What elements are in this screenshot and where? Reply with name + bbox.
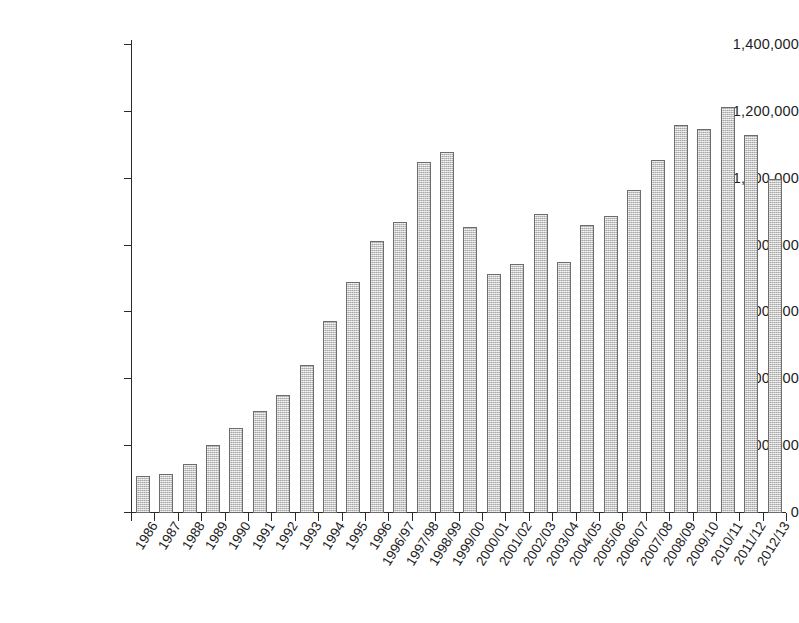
bar (580, 225, 594, 513)
bar (744, 135, 758, 513)
x-tick-mark (388, 513, 389, 521)
bar (229, 428, 243, 513)
bar (136, 476, 150, 513)
x-tick-mark (201, 513, 202, 521)
bar (393, 222, 407, 513)
x-tick-mark (154, 513, 155, 521)
bar (183, 464, 197, 513)
bar (697, 129, 711, 513)
x-tick-mark (342, 513, 343, 521)
x-tick-mark (576, 513, 577, 521)
bar (417, 162, 431, 513)
x-tick-mark (599, 513, 600, 521)
x-tick-mark (552, 513, 553, 521)
bar (323, 321, 337, 513)
x-tick-label: 1992 (272, 519, 301, 552)
bar (721, 107, 735, 513)
bar (510, 264, 524, 513)
x-tick-mark (459, 513, 460, 521)
x-tick-mark (365, 513, 366, 521)
x-tick-mark (248, 513, 249, 521)
x-tick-label: 1986 (132, 519, 161, 552)
x-tick-mark (295, 513, 296, 521)
x-tick-mark (716, 513, 717, 521)
y-tick-mark (124, 512, 131, 513)
bar (604, 216, 618, 514)
bar (534, 214, 548, 513)
x-tick-mark (505, 513, 506, 521)
bar (627, 190, 641, 513)
x-tick-mark (669, 513, 670, 521)
bar-chart: 0200,000400,000600,000800,0001,000,0001,… (0, 0, 799, 623)
x-tick-label: 1995 (342, 519, 371, 552)
x-tick-mark (225, 513, 226, 521)
bar (651, 160, 665, 513)
bar (300, 365, 314, 513)
x-tick-mark (739, 513, 740, 521)
y-tick-mark (124, 111, 131, 112)
x-tick-mark (318, 513, 319, 521)
bar (674, 125, 688, 513)
x-tick-label: 1991 (249, 519, 278, 552)
x-tick-mark (435, 513, 436, 521)
x-tick-label: 1990 (225, 519, 254, 552)
x-tick-mark (763, 513, 764, 521)
x-tick-mark (271, 513, 272, 521)
y-tick-mark (124, 44, 131, 45)
x-tick-mark (646, 513, 647, 521)
y-tick-mark (124, 245, 131, 246)
x-tick-mark (412, 513, 413, 521)
plot-area (131, 40, 786, 513)
y-tick-mark (124, 178, 131, 179)
x-tick-label: 1987 (155, 519, 184, 552)
x-tick-mark (178, 513, 179, 521)
bar (557, 262, 571, 513)
x-tick-label: 1989 (202, 519, 231, 552)
x-tick-mark (529, 513, 530, 521)
bar (463, 227, 477, 513)
x-tick-label: 1993 (296, 519, 325, 552)
bar (487, 274, 501, 513)
x-tick-mark (131, 513, 132, 521)
y-tick-mark (124, 311, 131, 312)
y-tick-mark (124, 445, 131, 446)
bar (206, 445, 220, 513)
bar (768, 179, 782, 513)
bar (346, 282, 360, 513)
x-tick-label: 1994 (319, 519, 348, 552)
bar (159, 474, 173, 513)
x-tick-label: 1988 (179, 519, 208, 552)
y-tick-mark (124, 378, 131, 379)
x-tick-mark (693, 513, 694, 521)
bar (253, 411, 267, 513)
bar (370, 241, 384, 513)
bar (276, 395, 290, 513)
x-tick-mark (482, 513, 483, 521)
bar (440, 152, 454, 513)
x-tick-mark (786, 513, 787, 521)
x-tick-mark (622, 513, 623, 521)
